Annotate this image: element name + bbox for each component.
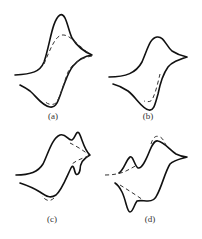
- panel-d: [105, 136, 187, 212]
- panel-b-label: (b): [143, 111, 154, 121]
- figure-canvas: [0, 0, 202, 239]
- panel-d-label: (d): [145, 214, 156, 224]
- panel-a-solid-curve: [15, 15, 92, 107]
- panel-b: [109, 37, 187, 110]
- panel-a-label: (a): [48, 111, 58, 121]
- panel-c: [16, 132, 90, 200]
- panel-d-dashed-curve: [105, 136, 166, 200]
- panel-a: [15, 15, 92, 107]
- panel-a-dashed-curve: [44, 35, 92, 105]
- panel-c-label: (c): [47, 214, 57, 224]
- panel-b-solid-curve: [109, 37, 187, 110]
- panel-d-solid-curve: [115, 141, 187, 212]
- panel-c-solid-curve: [16, 132, 90, 196]
